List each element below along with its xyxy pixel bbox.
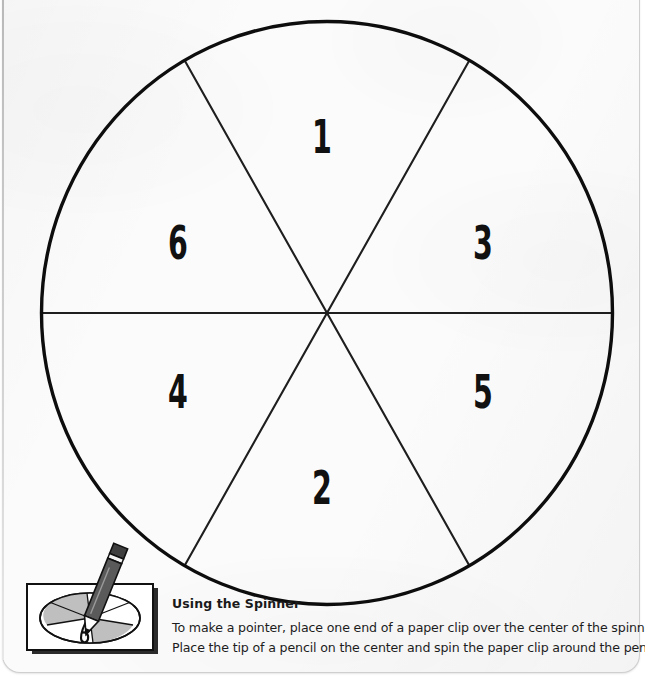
spinner-sector-label-3: 3	[473, 220, 493, 266]
instruction-line-2: Place the tip of a pencil on the center …	[172, 638, 627, 658]
spinner-sector-label-6: 6	[168, 220, 188, 266]
spinner-sector-label-5: 5	[473, 369, 493, 415]
spinner-sector-label-4: 4	[168, 369, 188, 415]
worksheet-page: 1 3 5 2 4 6	[0, 0, 645, 683]
spinner-wheel[interactable]: 1 3 5 2 4 6	[36, 16, 618, 611]
spinner-sector-label-1: 1	[312, 114, 332, 160]
instruction-line-1: To make a pointer, place one end of a pa…	[172, 618, 627, 638]
instructions-block: Using the Spinner To make a pointer, pla…	[172, 596, 627, 657]
spinner-sector-label-2: 2	[312, 465, 332, 511]
pencil-icon	[70, 536, 130, 656]
page-left-edge	[2, 0, 4, 660]
instructions-heading: Using the Spinner	[172, 596, 627, 611]
